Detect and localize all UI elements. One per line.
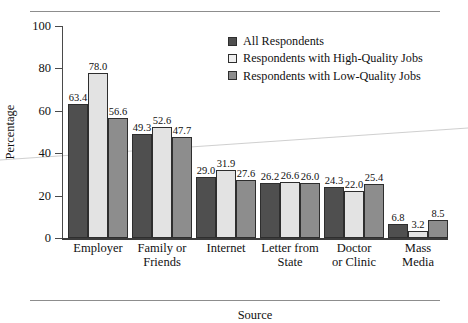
- y-tick-mark: [55, 196, 62, 197]
- x-category-label-doctor-or-clinic: Doctor or Clinic: [322, 242, 386, 269]
- legend-label: Respondents with Low-Quality Jobs: [243, 68, 421, 84]
- bar: 24.3: [324, 187, 344, 239]
- x-category-label-family-or-friends: Family or Friends: [130, 242, 194, 269]
- bar-group-employer: 63.4 78.0 56.6: [66, 26, 130, 238]
- top-divider-rule: [30, 11, 440, 12]
- y-tick-label: 20: [39, 189, 52, 202]
- legend-item-high-quality-jobs: Respondents with High-Quality Jobs: [228, 50, 423, 66]
- x-category-line: Mass: [386, 242, 450, 256]
- x-category-line: State: [255, 256, 325, 270]
- bar-value-label: 25.4: [365, 173, 383, 184]
- bar: 25.4: [364, 184, 384, 238]
- x-category-line: or Clinic: [322, 256, 386, 270]
- bar-value-label: 6.8: [391, 213, 404, 224]
- bar-group-family-or-friends: 49.3 52.6 47.7: [130, 26, 194, 238]
- legend-swatch-icon: [228, 71, 237, 80]
- legend-swatch-icon: [228, 54, 237, 63]
- y-tick-label: 80: [39, 62, 52, 75]
- bar-value-label: 26.6: [281, 171, 299, 182]
- y-axis-line: [62, 26, 63, 238]
- y-tick-label: 40: [39, 147, 52, 160]
- bar: 26.6: [280, 182, 300, 238]
- bar-value-label: 26.0: [301, 172, 319, 183]
- bar-value-label: 49.3: [133, 123, 151, 134]
- x-category-label-letter-from-state: Letter from State: [255, 242, 325, 269]
- x-category-line: Employer: [66, 242, 130, 256]
- y-tick-mark: [55, 238, 62, 239]
- bar-value-label: 8.5: [431, 209, 444, 220]
- x-category-line: Family or: [130, 242, 194, 256]
- bar: 78.0: [88, 73, 108, 238]
- legend: All Respondents Respondents with High-Qu…: [228, 33, 423, 85]
- bar: 3.2: [408, 231, 428, 238]
- bar-value-label: 24.3: [325, 176, 343, 187]
- bar: 47.7: [172, 137, 192, 238]
- x-category-line: Internet: [194, 242, 258, 256]
- bar: 56.6: [108, 118, 128, 238]
- bar: 22.0: [344, 191, 364, 238]
- y-tick-mark: [55, 153, 62, 154]
- bar: 49.3: [132, 134, 152, 239]
- bar-value-label: 31.9: [217, 159, 235, 170]
- x-category-line: Letter from: [255, 242, 325, 256]
- bar: 31.9: [216, 170, 236, 238]
- bar-value-label: 26.2: [261, 172, 279, 183]
- y-tick-label: 100: [32, 20, 51, 33]
- legend-swatch-icon: [228, 37, 237, 46]
- bottom-divider-rule: [30, 300, 440, 301]
- bar: 27.6: [236, 180, 256, 239]
- bar-value-label: 22.0: [345, 180, 363, 191]
- bar: 52.6: [152, 127, 172, 239]
- bar-value-label: 27.6: [237, 169, 255, 180]
- bar: 26.0: [300, 183, 320, 238]
- x-category-line: Doctor: [322, 242, 386, 256]
- y-axis-label: Percentage: [3, 105, 18, 160]
- bar-value-label: 52.6: [153, 116, 171, 127]
- bar: 26.2: [260, 183, 280, 239]
- y-tick-mark: [55, 111, 62, 112]
- bar-value-label: 63.4: [69, 93, 87, 104]
- y-tick-label: 0: [45, 232, 51, 245]
- bar-value-label: 78.0: [89, 62, 107, 73]
- bar: 63.4: [68, 104, 88, 238]
- legend-item-low-quality-jobs: Respondents with Low-Quality Jobs: [228, 68, 423, 84]
- y-tick-label: 60: [39, 105, 52, 118]
- x-category-line: Friends: [130, 256, 194, 270]
- legend-item-all-respondents: All Respondents: [228, 33, 423, 49]
- x-category-label-mass-media: Mass Media: [386, 242, 450, 269]
- legend-label: All Respondents: [243, 33, 324, 49]
- x-category-line: Media: [386, 256, 450, 270]
- x-axis-label: Source: [238, 308, 273, 323]
- bar-value-label: 56.6: [109, 107, 127, 118]
- bar: 8.5: [428, 220, 448, 238]
- legend-label: Respondents with High-Quality Jobs: [243, 50, 423, 66]
- x-axis-baseline: [62, 238, 448, 240]
- y-tick-mark: [55, 26, 62, 27]
- y-tick-mark: [55, 68, 62, 69]
- bar-value-label: 29.0: [197, 166, 215, 177]
- bar: 29.0: [196, 177, 216, 239]
- bar-value-label: 47.7: [173, 126, 191, 137]
- bar-value-label: 3.2: [411, 220, 424, 231]
- bar: 6.8: [388, 224, 408, 238]
- x-category-label-employer: Employer: [66, 242, 130, 256]
- x-category-label-internet: Internet: [194, 242, 258, 256]
